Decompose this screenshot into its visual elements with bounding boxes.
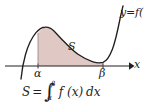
formula-lhs: S xyxy=(22,86,30,98)
integral-formula: S = ∫ β α f (x) dx xyxy=(22,84,101,100)
integral-upper-limit: β xyxy=(51,81,55,88)
curve-label: y=f( xyxy=(120,7,143,18)
shaded-area-label: S xyxy=(68,41,76,52)
x-axis-label: x xyxy=(134,59,140,70)
figure-container: y=f( S α β x S = ∫ β α f (x) dx xyxy=(0,0,153,112)
formula-integrand: f (x) xyxy=(59,86,83,98)
integral-lower-limit: α xyxy=(47,95,52,102)
integral-operator: ∫ β α xyxy=(44,84,54,100)
x-tick-label-beta: β xyxy=(99,68,105,79)
formula-equals-sign: = xyxy=(32,86,42,98)
x-tick-label-alpha: α xyxy=(34,68,41,79)
formula-differential: dx xyxy=(86,86,100,98)
